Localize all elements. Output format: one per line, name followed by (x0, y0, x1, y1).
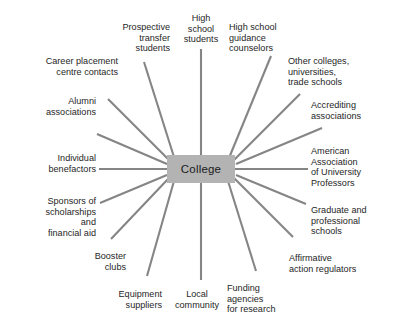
spoke-alumni-associations (97, 134, 167, 164)
node-label-graduate-and-professional-schools[interactable]: Graduate and professional schools (311, 205, 391, 237)
radial-diagram-canvas: College High school studentsHigh school … (0, 0, 394, 327)
spoke-sponsors-of-scholarships-and-financial-aid (100, 175, 167, 203)
node-label-equipment-suppliers[interactable]: Equipment suppliers (100, 289, 162, 310)
node-label-individual-benefactors[interactable]: Individual benefactors (22, 153, 96, 174)
node-label-alumni-associations[interactable]: Alumni associations (22, 96, 96, 117)
node-label-american-association-of-university-professors[interactable]: American Association of University Profe… (311, 146, 391, 188)
node-label-local-community[interactable]: Local community (166, 289, 228, 310)
node-label-affirmative-action-regulators[interactable]: Affirmative action regulators (289, 253, 381, 274)
node-label-high-school-guidance-counselors[interactable]: High school guidance counselors (229, 22, 293, 54)
node-label-sponsors-of-scholarships-and-financial-aid[interactable]: Sponsors of scholarships and financial a… (20, 196, 96, 238)
node-label-prospective-transfer-students[interactable]: Prospective transfer students (102, 22, 170, 54)
node-label-funding-agencies-for-research[interactable]: Funding agencies for research (227, 283, 295, 315)
hub-label: College (181, 163, 221, 175)
node-label-high-school-students[interactable]: High school students (171, 13, 231, 45)
node-label-career-placement-centre-contacts[interactable]: Career placement centre contacts (22, 56, 118, 77)
node-label-other-colleges-universities-trade-schools[interactable]: Other colleges, universities, trade scho… (288, 56, 366, 88)
spoke-prospective-transfer-students (144, 62, 174, 157)
spoke-equipment-suppliers (147, 181, 174, 276)
node-label-accrediting-associations[interactable]: Accrediting associations (311, 100, 383, 121)
hub-node-college[interactable]: College (167, 155, 235, 183)
node-label-booster-clubs[interactable]: Booster clubs (68, 251, 126, 272)
